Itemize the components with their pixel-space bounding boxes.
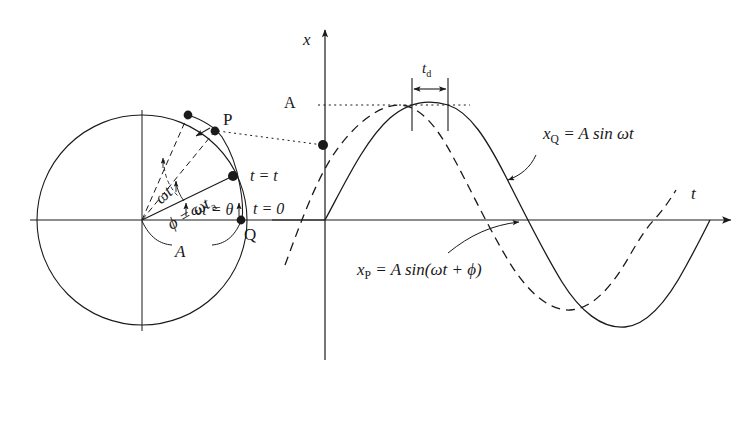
diagram-canvas [0,0,751,428]
point-omega-t [184,111,193,120]
xq-equation: xQ = A sin ωt [543,125,634,146]
wave-solid-xq [325,102,710,327]
td-label: td [422,61,431,79]
point-p-label: P [223,111,232,128]
point-p-projection [318,140,328,150]
radius-a-label: A [175,243,185,260]
xp-equation-rhs: = A sin(ωt + ϕ) [371,260,482,279]
phasor-wave-figure: x t A ωt ϕ = ωta ωt = θ P Q t = t t = 0 … [0,0,751,428]
graph-axes-group [272,30,731,360]
point-q-label: Q [244,226,256,243]
xq-equation-lhs: x [543,124,551,143]
projection-dotted-p [218,131,323,145]
point-t-equals-t [228,171,238,181]
leader-lines-group [448,155,536,253]
wave-group [285,102,710,327]
xq-equation-rhs: = A sin ωt [559,124,634,143]
point-q [237,216,246,225]
t-equals-t-label: t = t [250,168,278,184]
t-axis-label: t [691,185,696,202]
theta-label: ωt = θ [191,202,233,218]
leader-xp [448,222,519,253]
xp-equation: xP = A sin(ωt + ϕ) [357,261,482,282]
xq-equation-sub: Q [551,133,559,146]
td-label-sub: d [426,68,431,79]
projection-lines-group [218,105,470,150]
radius-bracket-right [212,221,241,245]
angle-arc-phi [176,182,184,201]
x-axis-label: x [303,31,311,48]
amplitude-label: A [284,95,296,111]
xp-equation-lhs: x [357,260,365,279]
leader-xq [508,155,536,180]
t-equals-zero-label: t = 0 [253,201,284,217]
